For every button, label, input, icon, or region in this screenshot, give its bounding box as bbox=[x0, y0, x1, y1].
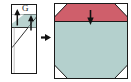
step1-label-g: G bbox=[22, 4, 29, 13]
diagram-svg bbox=[0, 0, 131, 82]
step-1-before-fold bbox=[12, 5, 37, 74]
step-arrow-icon bbox=[41, 34, 51, 41]
fold-diagram-canvas: G bbox=[0, 0, 131, 82]
step-2-after-fold bbox=[55, 4, 128, 79]
